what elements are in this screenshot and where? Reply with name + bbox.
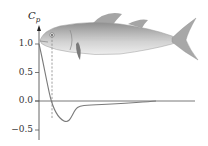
pressure-coefficient-chart: Cp 1.0 0.5 0.0 −0.5 xyxy=(0,0,208,146)
y-axis-title: Cp xyxy=(28,10,40,24)
cp-curve xyxy=(39,44,156,122)
y-ticks xyxy=(35,44,39,130)
y-tick-label-2: 0.5 xyxy=(3,68,33,77)
y-tick-label-3: 0.0 xyxy=(3,96,33,105)
y-tick-label-4: −0.5 xyxy=(3,125,33,134)
y-axis-arrow-icon xyxy=(37,25,41,31)
y-tick-label-1: 1.0 xyxy=(3,39,33,48)
fish-illustration xyxy=(40,13,198,60)
